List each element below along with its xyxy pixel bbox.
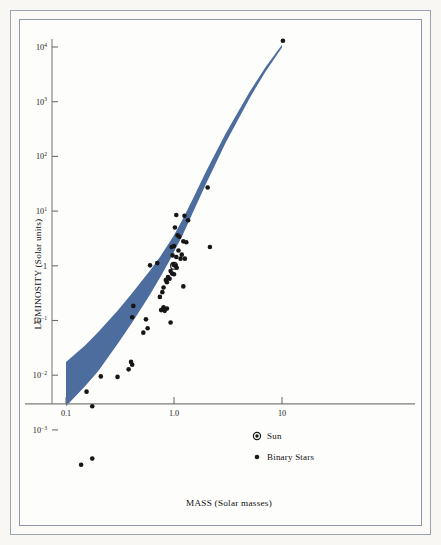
binary-star-data-point	[115, 375, 120, 380]
binary-star-data-point	[84, 389, 89, 394]
binary-star-data-point	[281, 38, 286, 43]
chart-legend: SunBinary Stars	[253, 431, 314, 462]
binary-star-data-point	[90, 404, 95, 409]
binary-star-data-point	[130, 315, 135, 320]
y-axis-title: LUMINOSITY (Solar units)	[33, 219, 43, 330]
binary-star-data-point	[141, 330, 146, 335]
binary-star-data-point	[148, 263, 153, 268]
binary-star-data-point	[174, 213, 179, 218]
legend-entry-label: Binary Stars	[267, 452, 314, 462]
y-tick-label: 10−2	[33, 370, 47, 380]
x-axis-title: MASS (Solar masses)	[186, 498, 272, 508]
x-axis-ticks: 0.11.010	[61, 397, 286, 418]
y-tick-label: 104	[36, 42, 47, 52]
binary-star-data-point	[131, 304, 136, 309]
binary-star-data-point	[174, 255, 179, 260]
x-tick-label: 0.1	[61, 409, 71, 418]
binary-star-data-point	[130, 362, 135, 367]
binary-star-data-point	[155, 261, 160, 266]
data-points-layer	[79, 38, 285, 467]
binary-star-data-point	[172, 272, 177, 277]
y-tick-label: 1	[43, 262, 47, 271]
y-tick-label: 103	[36, 96, 47, 106]
binary-star-data-point	[144, 317, 149, 322]
y-tick-label: 102	[36, 151, 47, 161]
binary-star-data-point	[184, 240, 189, 245]
binary-star-data-point	[165, 280, 170, 285]
binary-star-data-point	[158, 295, 163, 300]
binary-star-data-point	[168, 320, 173, 325]
binary-star-data-point	[160, 290, 165, 295]
binary-star-data-point	[161, 285, 166, 290]
binary-star-data-point	[178, 256, 183, 261]
binary-star-data-point	[90, 456, 95, 461]
binary-star-data-point	[174, 265, 179, 270]
binary-star-data-point	[79, 463, 84, 468]
legend-entry-label: Sun	[267, 431, 282, 441]
binary-star-data-point	[145, 326, 150, 331]
binary-star-data-point	[186, 218, 191, 223]
x-tick-label: 10	[278, 409, 286, 418]
binary-star-data-point	[183, 256, 188, 261]
binary-star-data-point	[179, 252, 184, 257]
binary-star-data-point	[162, 309, 167, 314]
binary-star-data-point	[173, 225, 178, 230]
binary-star-data-point	[181, 284, 186, 289]
mass-luminosity-scatter-chart: 10−310−210−11101102103104 0.11.010 SunBi…	[19, 19, 422, 526]
x-tick-label: 1.0	[169, 409, 179, 418]
binary-star-data-point	[126, 367, 131, 372]
legend-binary-stars-icon	[255, 455, 260, 460]
figure-root: 10−310−210−11101102103104 0.11.010 SunBi…	[0, 0, 441, 545]
y-tick-label: 10−3	[33, 425, 47, 435]
binary-star-data-point	[182, 214, 187, 219]
binary-star-data-point	[169, 245, 174, 250]
binary-star-data-point	[208, 245, 213, 250]
legend-sun-icon	[253, 432, 260, 439]
binary-star-data-point	[98, 374, 103, 379]
y-tick-label: 101	[36, 206, 47, 216]
binary-star-data-point	[177, 234, 182, 239]
binary-star-data-point	[176, 248, 181, 253]
binary-star-data-point	[205, 185, 210, 190]
